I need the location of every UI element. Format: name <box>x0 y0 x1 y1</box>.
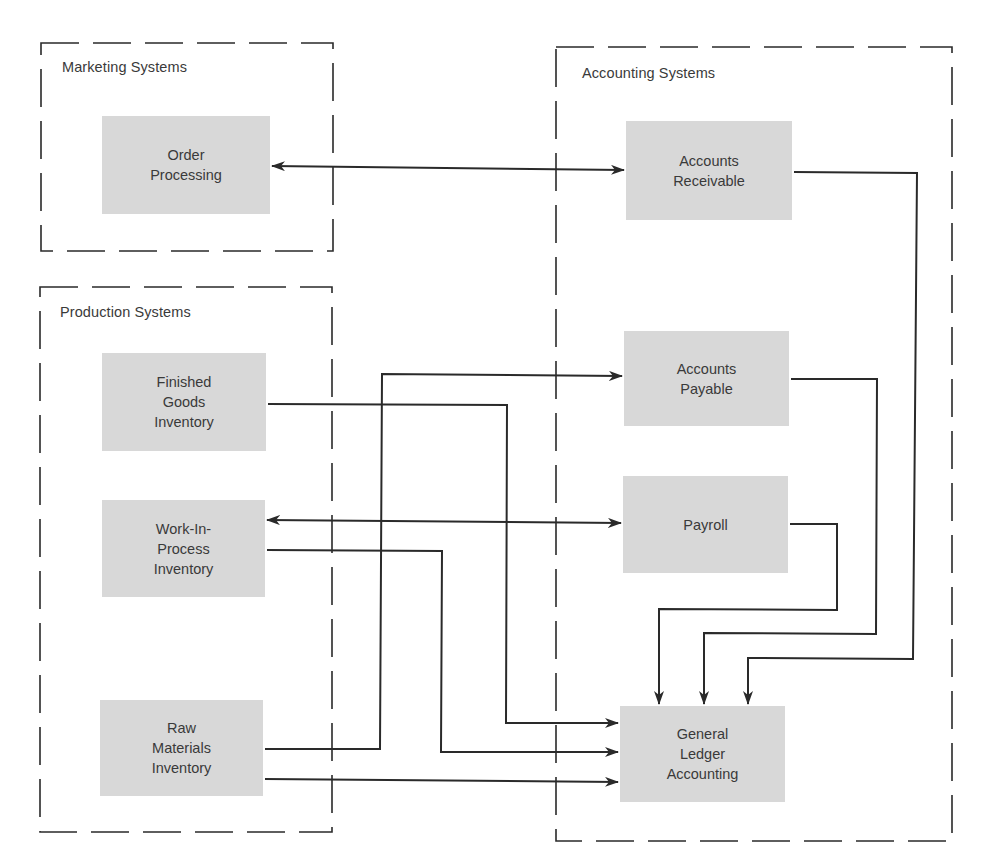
work-in-process-inventory-node[interactable]: Work-In- Process Inventory <box>102 500 265 597</box>
accounts-receivable-node[interactable]: Accounts Receivable <box>626 121 792 220</box>
node-label-line: Accounts <box>673 151 745 171</box>
edge-wip-general-ledger <box>267 550 618 752</box>
node-label-line: Payable <box>677 379 737 399</box>
node-label-line: Finished <box>154 372 214 392</box>
finished-goods-inventory-node[interactable]: Finished Goods Inventory <box>102 353 266 451</box>
general-ledger-accounting-node[interactable]: General Ledger Accounting <box>620 706 785 802</box>
node-label-line: Processing <box>150 165 222 185</box>
node-label-line: Inventory <box>154 412 214 432</box>
node-label-line: Goods <box>154 392 214 412</box>
node-label-line: Order <box>150 145 222 165</box>
node-label-line: Materials <box>152 738 212 758</box>
edge-raw-materials-accounts-payable <box>265 374 622 749</box>
node-label-line: General <box>667 724 739 744</box>
marketing-systems-label: Marketing Systems <box>62 59 187 75</box>
order-processing-node[interactable]: Order Processing <box>102 116 270 214</box>
node-label-line: Inventory <box>154 559 214 579</box>
edge-accounts-receivable-general-ledger <box>748 172 917 704</box>
node-label-line: Work-In- <box>154 519 214 539</box>
edge-order-processing-accounts-receivable <box>272 166 624 170</box>
node-label-line: Raw <box>152 718 212 738</box>
edge-wip-payroll <box>267 520 621 523</box>
node-label-line: Accounting <box>667 764 739 784</box>
node-label-line: Accounts <box>677 359 737 379</box>
accounts-payable-node[interactable]: Accounts Payable <box>624 331 789 426</box>
edge-finished-goods-general-ledger <box>268 404 618 723</box>
payroll-node[interactable]: Payroll <box>623 476 788 573</box>
node-label-line: Payroll <box>683 515 727 535</box>
node-label-line: Inventory <box>152 758 212 778</box>
node-label-line: Receivable <box>673 171 745 191</box>
production-systems-label: Production Systems <box>60 304 191 320</box>
accounting-systems-label: Accounting Systems <box>582 65 715 81</box>
node-label-line: Process <box>154 539 214 559</box>
edge-raw-materials-general-ledger <box>265 779 618 782</box>
raw-materials-inventory-node[interactable]: Raw Materials Inventory <box>100 700 263 796</box>
node-label-line: Ledger <box>667 744 739 764</box>
